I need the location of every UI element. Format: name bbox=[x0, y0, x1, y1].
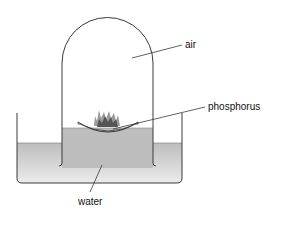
flame bbox=[94, 110, 120, 127]
label-air: air bbox=[185, 40, 196, 50]
air-leader-line bbox=[132, 45, 182, 58]
phosphorus-leader-line bbox=[113, 107, 205, 129]
label-phosphorus: phosphorus bbox=[208, 102, 260, 112]
label-water: water bbox=[78, 197, 102, 207]
water-body bbox=[17, 128, 182, 183]
